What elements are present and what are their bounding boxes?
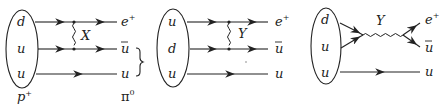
out-label-u: u bbox=[275, 66, 283, 81]
vertex-dot bbox=[72, 47, 75, 50]
fermion-line-u-incoming bbox=[341, 35, 363, 48]
fermion-line-anti-u-out bbox=[403, 35, 420, 47]
quark-label-u: u bbox=[321, 39, 329, 54]
proton-decay-feynman-diagrams: d u u X e+ u u p+ π0 bbox=[0, 0, 446, 112]
diagram-panel-2: u d u Y e+ u u bbox=[157, 9, 289, 87]
diagram-panel-3: d u u Y e+ u u bbox=[311, 8, 439, 84]
quark-label-d: d bbox=[168, 41, 176, 56]
quark-label-d: d bbox=[321, 12, 329, 27]
out-label-anti-u: u bbox=[121, 41, 129, 56]
out-label-anti-u: u bbox=[275, 41, 283, 56]
quark-label-u: u bbox=[168, 66, 176, 81]
diagram-panel-1: d u u X e+ u u p+ π0 bbox=[6, 10, 143, 104]
boson-wavy-line-x bbox=[73, 23, 76, 45]
quark-label-u: u bbox=[168, 14, 176, 29]
stray-dot bbox=[245, 61, 246, 62]
out-label-u: u bbox=[425, 64, 433, 79]
out-label-anti-u: u bbox=[425, 40, 433, 55]
boson-wavy-line-y bbox=[228, 23, 231, 45]
out-label-positron: e+ bbox=[275, 13, 289, 29]
fermion-line-positron-out bbox=[403, 23, 420, 35]
quark-label-d: d bbox=[17, 14, 25, 29]
quark-label-u: u bbox=[17, 66, 25, 81]
quark-label-u: u bbox=[17, 41, 25, 56]
out-label-u: u bbox=[121, 66, 129, 81]
boson-wavy-line-y bbox=[363, 34, 403, 37]
pion-brace-icon bbox=[136, 48, 143, 76]
quark-label-u: u bbox=[321, 65, 329, 80]
out-label-positron: e+ bbox=[425, 11, 439, 27]
boson-label-y: Y bbox=[238, 26, 248, 41]
boson-label-y: Y bbox=[376, 13, 386, 28]
out-label-positron: e+ bbox=[121, 13, 135, 29]
fermion-line-d-incoming bbox=[340, 23, 363, 35]
vertex-dot bbox=[227, 47, 230, 50]
final-state-label-pion: π0 bbox=[121, 88, 135, 104]
initial-state-label-proton: p+ bbox=[17, 89, 32, 104]
boson-label-x: X bbox=[80, 28, 91, 43]
